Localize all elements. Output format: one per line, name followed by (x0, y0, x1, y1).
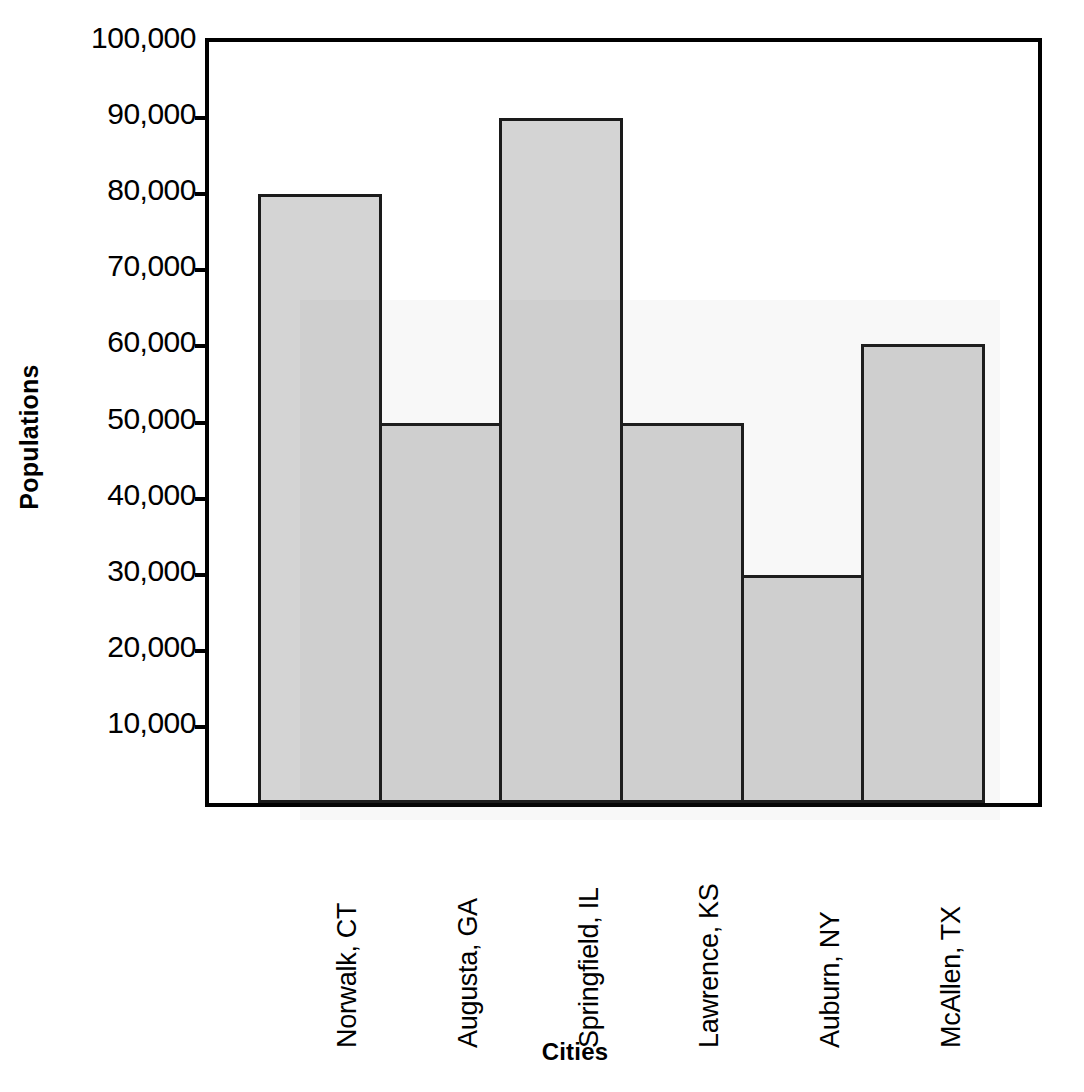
y-axis-tick-label: 30,000 (6, 554, 196, 588)
bar (741, 575, 865, 803)
y-axis-tick-label: 90,000 (6, 97, 196, 131)
x-axis-title: Cities (455, 1038, 695, 1066)
bar (499, 118, 623, 803)
bar (258, 194, 382, 803)
y-axis-tick-label: 40,000 (6, 478, 196, 512)
x-axis-tick-label: Lawrence, KS (694, 828, 724, 1048)
y-axis-tick-label: 20,000 (6, 630, 196, 664)
x-axis-tick-label: Norwalk, CT (332, 828, 362, 1048)
plot-area (209, 42, 1038, 803)
x-axis-tick-label: Springfield, IL (574, 828, 604, 1048)
y-axis-tick-label: 10,000 (6, 706, 196, 740)
y-axis-tick-label: 50,000 (6, 402, 196, 436)
bar (861, 344, 985, 803)
y-axis-tick-label: 70,000 (6, 249, 196, 283)
y-axis-tick-labels: 10,00020,00030,00040,00050,00060,00070,0… (0, 0, 196, 1092)
y-axis-tick-label: 80,000 (6, 173, 196, 207)
y-axis-tick-label: 100,000 (6, 21, 196, 55)
bar (379, 423, 503, 804)
bar (620, 423, 744, 804)
x-axis-tick-label: McAllen, TX (936, 828, 966, 1048)
bar-chart: Populations 10,00020,00030,00040,00050,0… (0, 0, 1084, 1092)
x-axis-tick-label: Augusta, GA (453, 828, 483, 1048)
x-axis-tick-label: Auburn, NY (815, 828, 845, 1048)
y-axis-tick-label: 60,000 (6, 325, 196, 359)
